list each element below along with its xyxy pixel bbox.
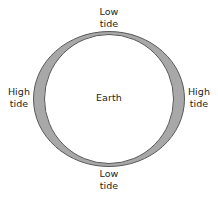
label-low-tide-top-line1: Low: [0, 6, 218, 18]
label-low-tide-bottom: Low tide: [0, 168, 218, 191]
label-high-tide-right-line2: tide: [182, 98, 216, 110]
label-low-tide-bottom-line2: tide: [0, 180, 218, 192]
label-high-tide-right: High tide: [182, 86, 216, 109]
label-low-tide-bottom-line1: Low: [0, 168, 218, 180]
label-low-tide-top: Low tide: [0, 6, 218, 29]
label-high-tide-right-line1: High: [182, 86, 216, 98]
tides-diagram: Low tide High tide Earth High tide Low t…: [0, 0, 218, 199]
label-low-tide-top-line2: tide: [0, 18, 218, 30]
